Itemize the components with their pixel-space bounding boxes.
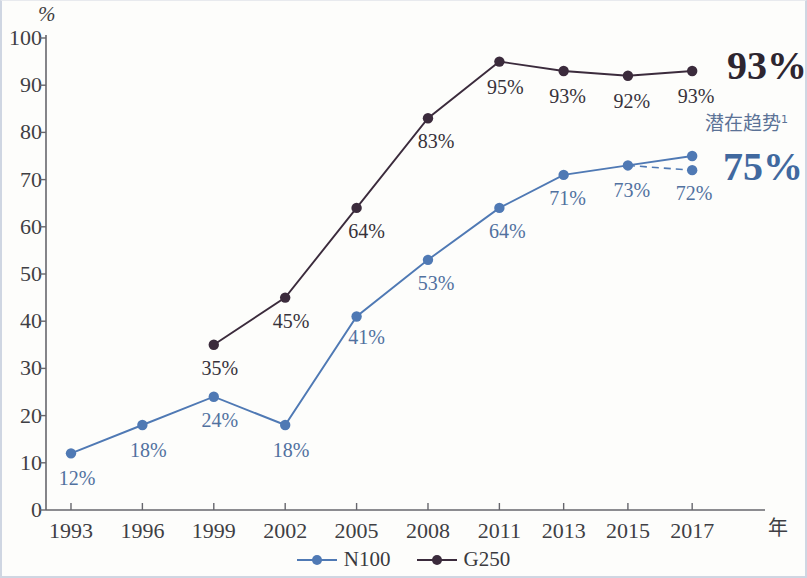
legend-label-N100: N100 xyxy=(344,547,391,572)
n100-label-2011: 64% xyxy=(489,220,526,243)
series-line-N100 xyxy=(71,156,692,453)
data-point-N100 xyxy=(558,170,568,180)
g250-label-2013: 93% xyxy=(549,85,586,108)
projection-point-N100 xyxy=(687,165,697,175)
legend-item-G250[interactable]: G250 xyxy=(417,547,511,572)
g250-label-2011: 95% xyxy=(487,76,524,99)
n100-label-2008: 53% xyxy=(418,272,455,295)
legend-item-N100[interactable]: N100 xyxy=(297,547,391,572)
latent-trend-superscript: 1 xyxy=(781,113,788,126)
data-point-G250 xyxy=(423,113,433,123)
g250-label-2002: 45% xyxy=(273,310,310,333)
g250-label-1999: 35% xyxy=(201,357,238,380)
legend-swatch-G250-icon xyxy=(417,554,457,566)
g250-label-2015: 92% xyxy=(614,90,651,113)
data-point-G250 xyxy=(209,340,219,350)
data-point-N100 xyxy=(687,151,697,161)
data-point-N100 xyxy=(280,420,290,430)
n100-label-1993: 12% xyxy=(59,467,96,490)
n100-label-1996: 18% xyxy=(130,439,167,462)
n100-label-2002: 18% xyxy=(273,439,310,462)
n100-label-2005: 41% xyxy=(348,326,385,349)
chart-container: % 年 0102030405060708090100 1993199619992… xyxy=(0,0,807,578)
data-point-G250 xyxy=(623,71,633,81)
n100-projection-label: 72% xyxy=(676,182,713,205)
data-point-N100 xyxy=(351,311,361,321)
latent-trend-note: 潜在趋势1 xyxy=(705,108,788,135)
data-point-G250 xyxy=(351,203,361,213)
g250-end-value-callout: 93% xyxy=(727,42,807,89)
data-point-N100 xyxy=(209,392,219,402)
data-point-N100 xyxy=(423,255,433,265)
legend-swatch-N100-icon xyxy=(297,554,337,566)
data-point-G250 xyxy=(280,292,290,302)
data-point-G250 xyxy=(687,66,697,76)
g250-label-2008: 83% xyxy=(418,130,455,153)
n100-end-value-callout: 75% xyxy=(723,143,803,190)
n100-label-2015: 73% xyxy=(614,179,651,202)
legend-label-G250: G250 xyxy=(464,547,511,572)
data-point-G250 xyxy=(494,56,504,66)
projection-line-N100 xyxy=(628,165,692,170)
latent-trend-text: 潜在趋势 xyxy=(705,112,781,134)
n100-label-2013: 71% xyxy=(549,187,586,210)
data-point-N100 xyxy=(66,448,76,458)
n100-label-1999: 24% xyxy=(201,409,238,432)
data-point-N100 xyxy=(494,203,504,213)
g250-label-2005: 64% xyxy=(348,220,385,243)
chart-legend: N100G250 xyxy=(0,547,807,572)
data-point-N100 xyxy=(137,420,147,430)
g250-label-2017: 93% xyxy=(678,85,715,108)
data-point-G250 xyxy=(558,66,568,76)
